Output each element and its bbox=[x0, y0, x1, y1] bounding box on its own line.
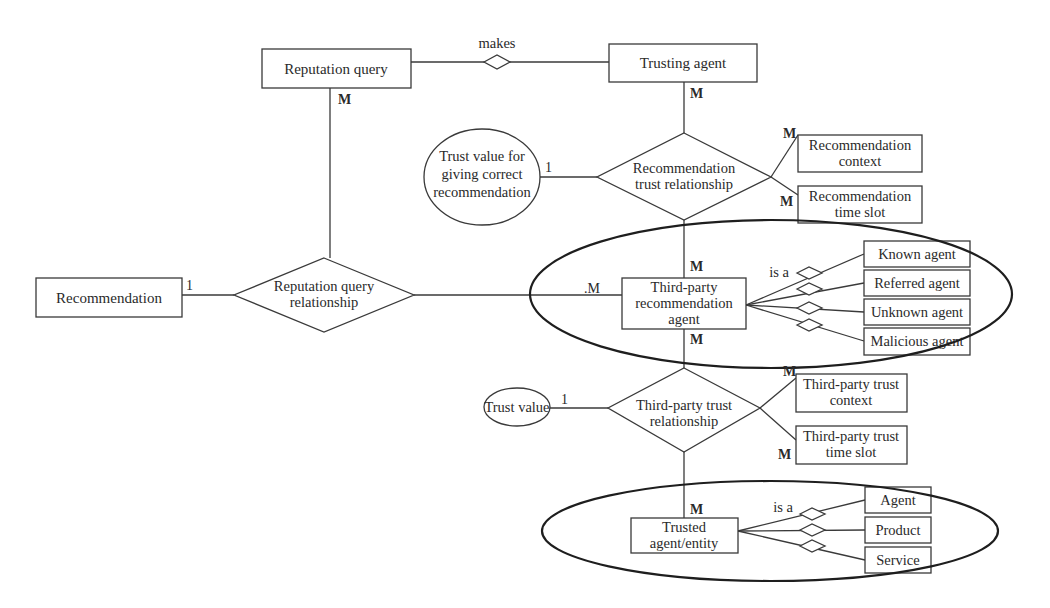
svg-text:Trust value for: Trust value for bbox=[439, 148, 525, 164]
svg-text:Trusting agent: Trusting agent bbox=[640, 55, 727, 71]
svg-text:relationship: relationship bbox=[290, 294, 358, 310]
svg-text:Recommendation: Recommendation bbox=[633, 160, 736, 176]
entity-trusting-agent: Trusting agent bbox=[609, 44, 757, 82]
svg-text:Product: Product bbox=[875, 522, 920, 538]
svg-text:Agent: Agent bbox=[880, 492, 915, 508]
svg-text:1: 1 bbox=[186, 278, 193, 293]
svg-text:recommendation: recommendation bbox=[433, 184, 531, 200]
svg-text:is a: is a bbox=[773, 499, 793, 515]
entity-unknown-agent: Unknown agent bbox=[864, 299, 970, 325]
relationship-reputation-query: Reputation query relationship bbox=[234, 258, 414, 332]
entity-recommendation: Recommendation bbox=[36, 278, 182, 317]
svg-text:M: M bbox=[778, 447, 791, 462]
entity-trusted-agent-entity: Trusted agent/entity bbox=[631, 518, 738, 553]
svg-text:Recommendation: Recommendation bbox=[809, 137, 912, 153]
svg-text:Reputation query: Reputation query bbox=[274, 278, 375, 294]
entity-agent: Agent bbox=[865, 487, 931, 513]
svg-text:Referred agent: Referred agent bbox=[874, 275, 960, 291]
svg-text:1: 1 bbox=[561, 392, 568, 407]
svg-text:recommendation: recommendation bbox=[635, 295, 733, 311]
svg-text:M: M bbox=[783, 126, 796, 141]
svg-text:Recommendation: Recommendation bbox=[809, 188, 912, 204]
svg-text:agent: agent bbox=[668, 311, 699, 327]
svg-text:Trusted: Trusted bbox=[662, 519, 707, 535]
attribute-trust-value-recommendation: Trust value for giving correct recommend… bbox=[424, 129, 540, 225]
svg-text:M: M bbox=[690, 259, 703, 274]
entity-referred-agent: Referred agent bbox=[864, 270, 970, 296]
svg-text:M: M bbox=[690, 86, 703, 101]
svg-text:M: M bbox=[780, 194, 793, 209]
svg-text:trust relationship: trust relationship bbox=[635, 176, 733, 192]
svg-text:M: M bbox=[690, 332, 703, 347]
svg-text:.M: .M bbox=[584, 281, 601, 296]
svg-text:context: context bbox=[839, 153, 882, 169]
svg-text:giving correct: giving correct bbox=[442, 166, 523, 182]
relationship-recommendation-trust: Recommendation trust relationship bbox=[597, 133, 771, 220]
svg-text:makes: makes bbox=[478, 35, 515, 51]
er-diagram: Reputation query Trusting agent Recommen… bbox=[0, 0, 1050, 608]
svg-text:M: M bbox=[338, 92, 351, 107]
svg-text:is a: is a bbox=[769, 264, 789, 280]
relationship-makes: makes bbox=[478, 35, 515, 69]
svg-text:1: 1 bbox=[545, 160, 552, 175]
relationship-third-party-trust: Third-party trust relationship bbox=[608, 368, 760, 452]
entity-recommendation-time-slot: Recommendation time slot bbox=[798, 186, 922, 223]
svg-text:agent/entity: agent/entity bbox=[650, 535, 719, 551]
entity-third-party-trust-time-slot: Third-party trust time slot bbox=[796, 426, 907, 464]
svg-text:Known agent: Known agent bbox=[878, 246, 956, 262]
svg-text:Malicious agent: Malicious agent bbox=[870, 333, 963, 349]
svg-text:Third-party trust: Third-party trust bbox=[803, 428, 899, 444]
attribute-trust-value: Trust value bbox=[484, 388, 550, 426]
svg-text:Recommendation: Recommendation bbox=[56, 290, 162, 306]
relationship-is-a-entities: is a bbox=[773, 499, 825, 552]
entity-reputation-query: Reputation query bbox=[262, 49, 411, 88]
svg-text:context: context bbox=[830, 392, 873, 408]
entity-product: Product bbox=[865, 517, 931, 543]
svg-text:Reputation query: Reputation query bbox=[284, 61, 388, 77]
entity-third-party-trust-context: Third-party trust context bbox=[796, 374, 907, 412]
svg-text:Third-party: Third-party bbox=[651, 279, 719, 295]
svg-text:Unknown agent: Unknown agent bbox=[871, 304, 963, 320]
svg-text:Third-party trust: Third-party trust bbox=[636, 397, 732, 413]
svg-text:Service: Service bbox=[876, 552, 919, 568]
entity-third-party-recommendation-agent: Third-party recommendation agent bbox=[622, 278, 746, 329]
svg-text:M: M bbox=[690, 502, 703, 517]
svg-text:Third-party trust: Third-party trust bbox=[803, 376, 899, 392]
svg-text:relationship: relationship bbox=[650, 413, 718, 429]
svg-text:time slot: time slot bbox=[826, 444, 876, 460]
relationship-is-a-agents: is a bbox=[769, 264, 822, 331]
svg-text:M: M bbox=[783, 364, 796, 379]
svg-text:time slot: time slot bbox=[835, 204, 885, 220]
entity-recommendation-context: Recommendation context bbox=[798, 135, 922, 172]
svg-text:Trust value: Trust value bbox=[484, 399, 549, 415]
